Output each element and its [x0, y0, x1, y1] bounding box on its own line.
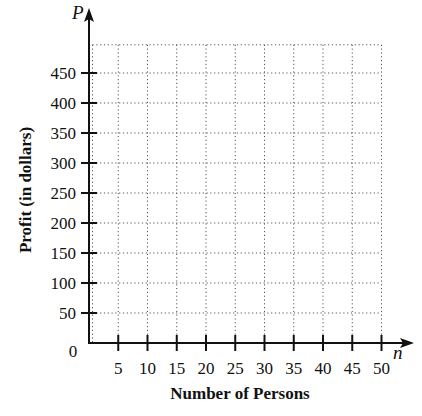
x-variable-label: n [393, 342, 403, 363]
chart: 5101520253035404550 50100150200250300350… [0, 0, 422, 416]
origin-label: 0 [69, 342, 78, 361]
x-tick-label: 30 [256, 359, 273, 378]
x-tick-label: 5 [114, 359, 123, 378]
plot-area: 5101520253035404550 50100150200250300350… [0, 0, 422, 416]
x-tick-label: 10 [139, 359, 156, 378]
grid [93, 45, 382, 343]
y-axis-title: Profit (in dollars) [16, 127, 35, 253]
y-tick-label: 150 [51, 244, 77, 263]
y-tick-label: 350 [51, 124, 77, 143]
x-tick-label: 15 [168, 359, 185, 378]
axes [84, 8, 414, 348]
y-tick-label: 100 [51, 274, 77, 293]
y-axis-ticks: 50100150200250300350400450 [51, 64, 98, 323]
x-tick-label: 45 [344, 359, 361, 378]
y-tick-label: 200 [51, 214, 77, 233]
y-variable-label: P [71, 2, 84, 23]
y-tick-label: 50 [59, 304, 76, 323]
y-tick-label: 250 [51, 184, 77, 203]
x-axis-title: Number of Persons [170, 384, 310, 403]
x-tick-label: 40 [315, 359, 332, 378]
x-tick-label: 50 [373, 359, 390, 378]
x-tick-label: 35 [285, 359, 302, 378]
x-tick-label: 25 [227, 359, 244, 378]
x-axis-ticks: 5101520253035404550 [114, 335, 390, 378]
y-tick-label: 300 [51, 154, 77, 173]
x-tick-label: 20 [198, 359, 215, 378]
y-tick-label: 400 [51, 94, 77, 113]
y-tick-label: 450 [51, 64, 77, 83]
